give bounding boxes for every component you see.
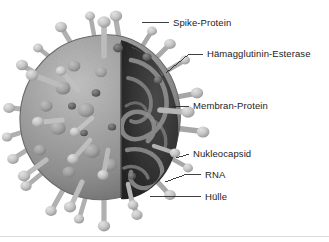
label-spike-protein: Spike-Protein <box>173 17 231 28</box>
label-membran-protein: Membran-Protein <box>193 100 268 111</box>
label-rna: RNA <box>205 169 225 180</box>
label-nukleocapsid: Nukleocapsid <box>193 148 251 159</box>
coronavirus-diagram: Spike-Protein Hämagglutinin-Esterase Mem… <box>0 0 329 242</box>
virus-illustration <box>0 0 329 242</box>
label-huelle: Hülle <box>205 191 227 202</box>
label-haemagglutinin-esterase: Hämagglutinin-Esterase <box>207 48 311 59</box>
leader-rna <box>165 174 187 182</box>
